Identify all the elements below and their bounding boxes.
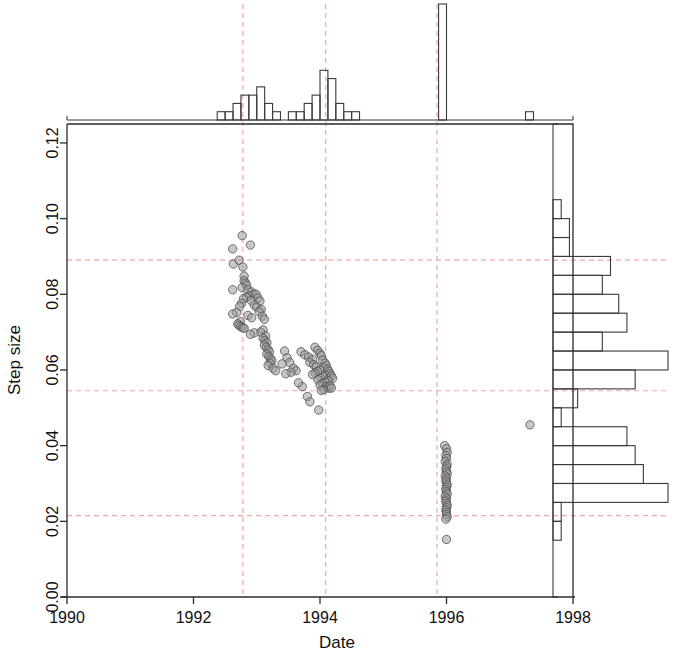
scatter-point — [238, 231, 246, 239]
scatter-point — [317, 386, 325, 394]
y-tick-label: 0.02 — [44, 506, 61, 537]
y-tick-label: 0.10 — [44, 203, 61, 234]
x-tick-label: 1994 — [302, 609, 338, 626]
scatter-point — [442, 515, 450, 523]
y-tick-label: 0.04 — [44, 430, 61, 461]
y-axis-title: Step size — [5, 325, 24, 395]
scatter-point — [229, 286, 237, 294]
x-tick-label: 1998 — [555, 609, 591, 626]
scatter-point — [282, 370, 290, 378]
scatter-point — [229, 310, 237, 318]
y-tick-label: 0.12 — [44, 127, 61, 158]
scatter-point — [442, 535, 450, 543]
scatter-point — [246, 330, 254, 338]
scatter-point — [315, 406, 323, 414]
x-tick-label: 1996 — [429, 609, 465, 626]
chart-canvas: 0.000.020.040.060.080.100.12199019921994… — [0, 0, 674, 656]
scatter-point — [246, 241, 254, 249]
y-tick-label: 0.00 — [44, 581, 61, 612]
y-tick-label: 0.08 — [44, 279, 61, 310]
scatter-point — [260, 315, 268, 323]
scatter-point — [272, 367, 280, 375]
scatter-point — [327, 384, 335, 392]
x-tick-label: 1992 — [176, 609, 212, 626]
y-tick-label: 0.06 — [44, 354, 61, 385]
x-tick-label: 1990 — [49, 609, 85, 626]
scatter-point — [526, 421, 534, 429]
scatter-point — [306, 398, 314, 406]
x-axis-title: Date — [319, 633, 355, 652]
scatter-with-marginal-histograms: 0.000.020.040.060.080.100.12199019921994… — [0, 0, 674, 656]
scatter-point — [278, 360, 286, 368]
scatter-point — [294, 379, 302, 387]
scatter-point — [239, 263, 247, 271]
scatter-point — [247, 314, 255, 322]
scatter-point — [229, 245, 237, 253]
